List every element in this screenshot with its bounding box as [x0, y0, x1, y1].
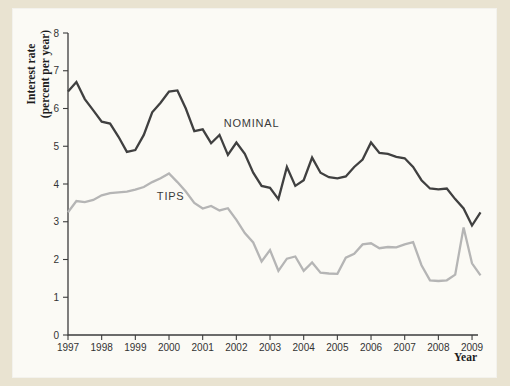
x-tick-label: 2004: [293, 342, 316, 353]
x-tick-label: 2008: [427, 342, 450, 353]
x-tick-label: 1999: [124, 342, 147, 353]
x-tick-label: 2001: [192, 342, 215, 353]
y-tick-label: 8: [53, 28, 59, 39]
x-tick-label: 2006: [360, 342, 383, 353]
x-tick-label: 2005: [326, 342, 349, 353]
x-tick-label: 2003: [259, 342, 282, 353]
y-tick-label: 0: [53, 330, 59, 341]
y-tick-label: 7: [53, 65, 59, 76]
x-tick-label: 1997: [57, 342, 80, 353]
y-tick-label: 4: [53, 179, 59, 190]
tips-line: [68, 173, 481, 281]
y-axis-title: (percent per year): [39, 30, 52, 119]
x-tick-label: 2007: [394, 342, 417, 353]
tips-label: TIPS: [157, 190, 185, 202]
y-tick-label: 1: [53, 292, 59, 303]
nominal-line: [68, 82, 481, 225]
y-axis-title: Interest rate: [25, 44, 37, 105]
axes: [68, 33, 478, 335]
x-tick-label: 1998: [91, 342, 114, 353]
nominal-label: NOMINAL: [224, 117, 280, 129]
y-tick-label: 5: [53, 141, 59, 152]
interest-rate-chart: 0123456781997199819992000200120022003200…: [0, 0, 510, 386]
y-tick-label: 3: [53, 216, 59, 227]
x-tick-label: 2000: [158, 342, 181, 353]
y-tick-label: 2: [53, 254, 59, 265]
x-tick-label: 2002: [225, 342, 248, 353]
y-tick-label: 6: [53, 103, 59, 114]
x-axis-title: Year: [454, 351, 477, 363]
